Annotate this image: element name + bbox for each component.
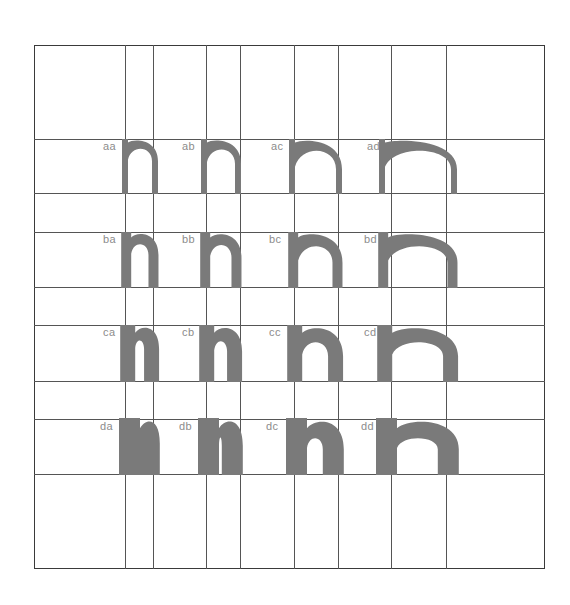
n-glyph-cd	[377, 325, 458, 382]
n-glyph-ba	[121, 232, 158, 288]
n-glyph-dd	[376, 418, 459, 475]
cell-label-dc: dc	[266, 421, 279, 432]
cell-label-aa: aa	[103, 141, 116, 152]
cell-label-db: db	[179, 421, 192, 432]
n-glyph-bb	[200, 232, 241, 288]
cell-label-ab: ab	[182, 141, 195, 152]
cell-label-dd: dd	[361, 421, 374, 432]
cell-label-bb: bb	[182, 234, 195, 245]
cell-label-bd: bd	[364, 234, 377, 245]
cell-label-bc: bc	[269, 234, 282, 245]
cell-label-cc: cc	[269, 327, 281, 338]
cell-label-da: da	[100, 421, 113, 432]
n-glyph-ca	[120, 325, 159, 382]
n-glyph-set	[0, 0, 570, 605]
n-glyph-bd	[378, 232, 457, 288]
n-glyph-db	[198, 418, 243, 475]
cell-label-ad: ad	[367, 141, 380, 152]
cell-label-ca: ca	[103, 327, 116, 338]
cell-label-cd: cd	[364, 327, 377, 338]
n-glyph-aa	[122, 139, 158, 194]
n-glyph-da	[119, 418, 160, 475]
n-glyph-ac	[289, 139, 342, 194]
n-glyph-ad	[379, 139, 457, 194]
n-glyph-bc	[288, 232, 342, 288]
n-glyph-cb	[199, 325, 242, 382]
cell-label-ac: ac	[271, 141, 284, 152]
n-glyph-cc	[287, 325, 343, 382]
glyph-matrix-figure: aaabacadbabbbcbdcacbcccddadbdcdd	[0, 0, 570, 605]
n-glyph-dc	[286, 418, 344, 475]
cell-label-ba: ba	[103, 234, 116, 245]
cell-label-cb: cb	[182, 327, 195, 338]
n-glyph-ab	[201, 139, 241, 194]
